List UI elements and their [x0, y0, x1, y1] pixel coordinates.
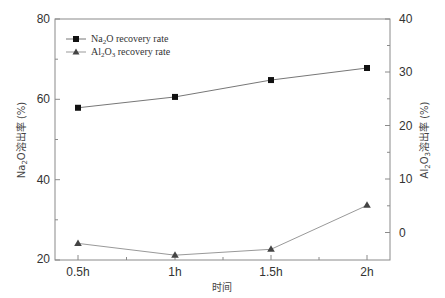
legend: Na2O recovery rate Al2O3 recovery rate	[66, 33, 171, 59]
x-tick-labels: 0.5h 1h 1.5h 2h	[66, 265, 373, 279]
x-tick-2h: 2h	[360, 265, 373, 279]
y-tick-40: 40	[37, 173, 51, 187]
square-marker-icon	[73, 36, 79, 42]
x-tick-0-5h: 0.5h	[66, 265, 89, 279]
y-tick-60: 60	[37, 92, 51, 106]
y-tick-80: 80	[37, 12, 51, 26]
square-marker-icon	[268, 77, 274, 83]
left-y-axis	[55, 19, 60, 260]
square-marker-icon	[364, 65, 370, 71]
right-y-tick-labels: 0 10 20 30 40	[399, 12, 413, 240]
svg-text:Na2O recovery rate: Na2O recovery rate	[91, 33, 169, 46]
y2-tick-40: 40	[399, 12, 413, 26]
series-line-al2o3	[78, 205, 367, 255]
svg-text:Al2O3 recovery rate: Al2O3 recovery rate	[91, 46, 171, 59]
y2-tick-10: 10	[399, 172, 413, 186]
square-marker-icon	[172, 94, 178, 100]
legend-item-al2o3: Al2O3 recovery rate	[66, 46, 171, 59]
right-y-axis-title: Al2O3溶出率 (%)	[418, 101, 432, 178]
left-y-axis-title: Na2O溶出率 (%)	[15, 102, 29, 179]
x-tick-1-5h: 1.5h	[259, 265, 282, 279]
x-tick-1h: 1h	[168, 265, 181, 279]
triangle-marker-icon	[363, 201, 371, 208]
y-tick-20: 20	[37, 252, 51, 266]
chart: 20 40 60 80 0 10 20 30 40 0.5h 1h 1.5h	[0, 0, 445, 298]
y2-tick-20: 20	[399, 119, 413, 133]
y2-tick-0: 0	[399, 226, 406, 240]
y2-tick-30: 30	[399, 65, 413, 79]
series-line-na2o	[78, 68, 367, 108]
triangle-marker-icon	[74, 239, 82, 246]
series-layer	[74, 65, 371, 258]
x-axis	[78, 255, 367, 260]
square-marker-icon	[75, 105, 81, 111]
right-y-axis	[385, 19, 390, 233]
legend-item-na2o: Na2O recovery rate	[66, 33, 169, 46]
left-y-tick-labels: 20 40 60 80	[37, 12, 51, 266]
x-axis-title: 时间	[212, 281, 232, 293]
